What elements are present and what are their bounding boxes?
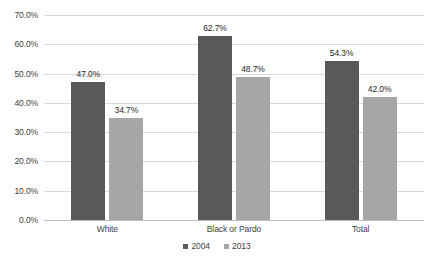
- bar-group: 62.7%48.7%: [198, 15, 270, 220]
- bar-value-label: 34.7%: [115, 105, 139, 115]
- bar-value-label: 47.0%: [77, 69, 101, 79]
- y-axis-tick-label: 40.0%: [0, 98, 38, 108]
- legend-label: 2004: [191, 241, 210, 251]
- y-axis-tick-label: 70.0%: [0, 10, 38, 20]
- bar-value-label: 62.7%: [203, 23, 227, 33]
- bar-chart: 0.0%10.0%20.0%30.0%40.0%50.0%60.0%70.0% …: [0, 0, 434, 264]
- bar-group: 47.0%34.7%: [71, 15, 143, 220]
- bar[interactable]: [109, 118, 143, 220]
- x-axis-tick-label: White: [44, 224, 171, 234]
- bar-group: 54.3%42.0%: [325, 15, 397, 220]
- x-axis-tick-label: Total: [297, 224, 424, 234]
- y-axis-tick-label: 10.0%: [0, 186, 38, 196]
- legend: 20042013: [0, 241, 434, 251]
- y-axis-tick-label: 60.0%: [0, 39, 38, 49]
- bar-value-label: 42.0%: [368, 84, 392, 94]
- legend-swatch-icon: [224, 244, 229, 249]
- x-axis-tick-label: Black or Pardo: [171, 224, 298, 234]
- bar[interactable]: [71, 82, 105, 220]
- axis-baseline: [44, 220, 424, 221]
- legend-item[interactable]: 2013: [224, 241, 251, 251]
- y-axis-tick-label: 30.0%: [0, 127, 38, 137]
- y-axis-tick-label: 0.0%: [0, 215, 38, 225]
- y-axis-tick-label: 20.0%: [0, 156, 38, 166]
- bar-value-label: 48.7%: [241, 64, 265, 74]
- bar[interactable]: [325, 61, 359, 220]
- bar[interactable]: [198, 36, 232, 220]
- legend-swatch-icon: [183, 244, 188, 249]
- bar[interactable]: [236, 77, 270, 220]
- legend-item[interactable]: 2004: [183, 241, 210, 251]
- legend-label: 2013: [232, 241, 251, 251]
- y-axis-tick-label: 50.0%: [0, 69, 38, 79]
- bar[interactable]: [363, 97, 397, 220]
- bar-value-label: 54.3%: [330, 48, 354, 58]
